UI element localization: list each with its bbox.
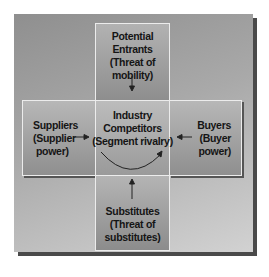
circular-arrow-icon	[101, 151, 162, 169]
arrows-layer	[0, 0, 269, 277]
arrow-up-icon	[130, 179, 135, 199]
arrow-left-icon	[177, 135, 192, 140]
arrow-down-icon	[130, 76, 135, 91]
arrow-right-icon	[73, 135, 89, 140]
